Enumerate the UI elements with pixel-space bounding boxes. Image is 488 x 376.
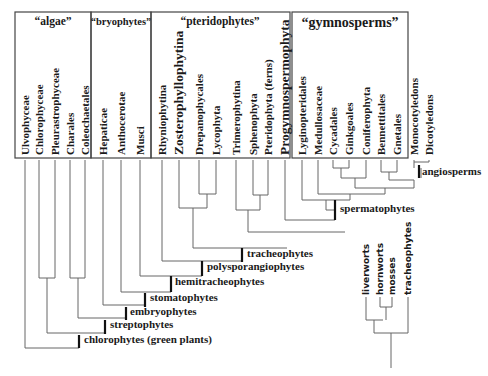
- clade-spermatophytes: spermatophytes: [335, 200, 415, 220]
- clade-polysporangiophytes: polysporangiophytes: [202, 260, 305, 276]
- tree-branch: [236, 160, 260, 210]
- tree-branch: [333, 160, 349, 168]
- taxon-label: Gnetales: [391, 113, 403, 155]
- group-label: “bryophytes”: [91, 16, 152, 27]
- tree-branch: [193, 208, 287, 248]
- clade-label: polysporangiophytes: [207, 260, 305, 272]
- clade-label: angiosperms: [422, 165, 482, 177]
- taxa-labels: UlvophyceaeChlorophyceaePleurastrophycea…: [19, 19, 435, 155]
- tree-branch: [25, 160, 79, 348]
- taxon-label: Monocotyledons: [408, 77, 420, 155]
- taxon-label: Pleurastrophyceae: [49, 68, 61, 155]
- taxon-label: Charales: [64, 112, 76, 155]
- taxon-label: Coniferophyta: [360, 86, 372, 155]
- taxon-label: Chlorophyceae: [33, 84, 45, 155]
- group-label: “algae”: [34, 15, 71, 28]
- taxon-label: Trimerophytina: [230, 80, 242, 155]
- clade-angiosperms: angiosperms: [419, 165, 482, 178]
- taxon-label: Progymnospermophyta: [277, 19, 292, 155]
- clade-label: stomatophytes: [150, 291, 219, 303]
- inset-tree: liverwortshornwortsmossestracheophytes: [361, 222, 413, 368]
- taxon-label: Dicotyledons: [423, 94, 435, 155]
- clade-label: embryophytes: [130, 305, 197, 317]
- inset-taxon-label: liverworts: [361, 244, 371, 295]
- inset-branch: [374, 297, 408, 333]
- taxon-label: Lycophyta: [210, 105, 222, 155]
- taxon-label: Ulvophyceae: [19, 95, 31, 155]
- taxon-label: Zosterophyllophytina: [171, 30, 186, 155]
- clade-streptophytes: streptophytes: [105, 318, 174, 334]
- taxon-label: Bennettitales: [375, 93, 387, 155]
- taxon-label: Rhyniophytina: [156, 84, 168, 155]
- inset-taxon-label: tracheophytes: [403, 222, 413, 295]
- inset-taxon-label: hornworts: [375, 243, 385, 295]
- taxon-label: Ginkgoales: [343, 102, 355, 155]
- clade-label: streptophytes: [110, 318, 174, 330]
- tree-branch: [199, 160, 216, 194]
- taxon-label: Medullosaceae: [312, 86, 324, 155]
- tree-branch: [326, 200, 335, 210]
- taxon-label: Hepaticae: [97, 108, 109, 155]
- tree-branch: [179, 160, 207, 208]
- tree-branch: [121, 160, 171, 292]
- clade-label: chlorophytes (green plants): [84, 333, 212, 346]
- tree-branch: [78, 278, 126, 318]
- tree-branch: [285, 160, 335, 220]
- tree-branch: [381, 160, 397, 172]
- clade-label: hemitracheophytes: [175, 275, 265, 287]
- tree-branch: [318, 160, 385, 194]
- tree-branch: [253, 160, 268, 195]
- tree-branch: [103, 160, 145, 305]
- tree-branch: [248, 210, 345, 232]
- group-label: “gymnosperms”: [301, 15, 398, 30]
- clade-label: tracheophytes: [247, 247, 314, 259]
- taxon-label: Lyginopteridales: [296, 75, 308, 155]
- cladogram: “algae”“bryophytes”“pteridophytes”“gymno…: [0, 0, 488, 376]
- clade-chlorophytes: chlorophytes (green plants): [79, 333, 212, 348]
- taxon-label: Drepanophycales: [193, 73, 205, 155]
- taxon-label: Cycadales: [327, 107, 339, 155]
- tree-branch: [162, 160, 242, 261]
- clade-label: spermatophytes: [340, 202, 415, 214]
- taxon-label: Coleochaetales: [79, 85, 91, 155]
- tree-branch: [47, 278, 105, 333]
- group-label: “pteridophytes”: [180, 15, 259, 28]
- tree-branch: [341, 160, 366, 178]
- clade-markers: angiospermsspermatophytestracheophytespo…: [79, 165, 482, 348]
- taxon-label: Sphenophyta: [247, 93, 259, 155]
- tree-branch: [414, 160, 429, 162]
- inset-taxon-label: mosses: [387, 257, 397, 295]
- tree-branch: [389, 172, 414, 180]
- taxon-label: Musci: [134, 126, 146, 155]
- tree-branch: [39, 160, 55, 278]
- taxon-label: Pteridophyta (ferns): [262, 59, 275, 155]
- taxon-label: Anthocerotae: [115, 92, 127, 155]
- clade-hemitracheophytes: hemitracheophytes: [171, 275, 265, 292]
- inset-branch: [380, 297, 392, 307]
- tree-branch: [70, 160, 85, 278]
